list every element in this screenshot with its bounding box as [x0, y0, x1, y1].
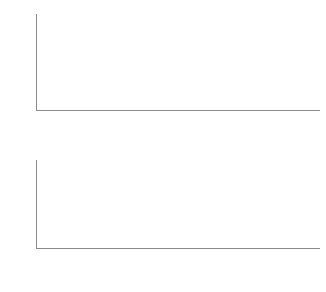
- bar-group-top: [37, 14, 320, 110]
- figure-caption-truncated: [6, 283, 320, 292]
- x-tickmarks-top: [37, 110, 320, 113]
- x-tickmarks-bottom: [37, 248, 320, 251]
- x-axis-labels-bottom: [36, 252, 319, 262]
- plot-area-top: [36, 14, 320, 111]
- x-axis-labels-top: [36, 114, 319, 124]
- figure-container: [0, 0, 326, 292]
- bar-group-bottom: [37, 160, 320, 248]
- y-axis-ticks-bottom: [16, 160, 33, 248]
- chart-recruitment-index: [0, 148, 326, 282]
- y-axis-ticks-top: [16, 14, 33, 110]
- plot-area-bottom: [36, 160, 320, 249]
- chart-deer-abundance: [0, 0, 326, 148]
